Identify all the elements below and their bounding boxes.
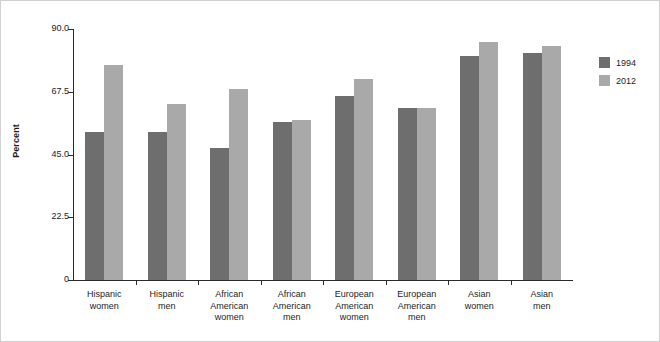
bar bbox=[542, 46, 561, 280]
x-axis-label: Asianmen bbox=[511, 289, 574, 312]
x-axis-label-line: European bbox=[386, 289, 449, 301]
x-axis-label-line: American bbox=[323, 301, 386, 313]
bar bbox=[210, 148, 229, 280]
bar bbox=[167, 104, 186, 280]
x-axis-label: AfricanAmericanwomen bbox=[198, 289, 261, 324]
x-axis-label: EuropeanAmericanmen bbox=[386, 289, 449, 324]
x-axis-label: Asianwomen bbox=[448, 289, 511, 312]
y-axis-tick-label: 45.0 bbox=[51, 149, 69, 159]
x-axis-tick-mark bbox=[448, 280, 449, 285]
legend-item[interactable]: 1994 bbox=[599, 57, 636, 68]
bar bbox=[85, 132, 104, 280]
x-axis-label-line: women bbox=[198, 312, 261, 324]
x-axis-tick-mark bbox=[198, 280, 199, 285]
bar bbox=[273, 122, 292, 280]
y-axis-title: Percent bbox=[5, 1, 27, 280]
x-axis-label-line: men bbox=[261, 312, 324, 324]
y-axis-title-text: Percent bbox=[11, 124, 21, 158]
x-axis-label-line: American bbox=[386, 301, 449, 313]
chart-legend: 19942012 bbox=[599, 57, 636, 93]
y-axis-tick-label: 0 bbox=[64, 274, 69, 284]
bar bbox=[335, 96, 354, 280]
bar bbox=[460, 56, 479, 281]
x-axis-tick-mark bbox=[261, 280, 262, 285]
y-axis-tick-label: 22.5 bbox=[51, 211, 69, 221]
x-axis-label-line: men bbox=[136, 301, 199, 313]
chart-figure: Percent 022.545.067.590.0 HispanicwomenH… bbox=[0, 0, 660, 342]
x-axis-label-line: Hispanic bbox=[136, 289, 199, 301]
x-axis-label-line: American bbox=[261, 301, 324, 313]
bar bbox=[354, 79, 373, 280]
x-axis-label-line: Hispanic bbox=[73, 289, 136, 301]
x-axis-label-line: women bbox=[323, 312, 386, 324]
x-axis-labels: HispanicwomenHispanicmenAfricanAmericanw… bbox=[73, 289, 573, 337]
bars-layer bbox=[73, 29, 573, 280]
x-axis-label-line: men bbox=[386, 312, 449, 324]
bar bbox=[523, 53, 542, 280]
legend-item[interactable]: 2012 bbox=[599, 75, 636, 86]
legend-swatch bbox=[599, 57, 610, 68]
x-axis-label-line: African bbox=[198, 289, 261, 301]
x-axis-label: Hispanicwomen bbox=[73, 289, 136, 312]
x-axis-label-line: American bbox=[198, 301, 261, 313]
bar bbox=[398, 108, 417, 280]
x-axis-label-line: women bbox=[448, 301, 511, 313]
legend-label: 2012 bbox=[616, 76, 636, 86]
bar bbox=[104, 65, 123, 280]
x-axis-tick-mark bbox=[386, 280, 387, 285]
x-axis-label-line: women bbox=[73, 301, 136, 313]
x-axis-label-line: African bbox=[261, 289, 324, 301]
bar bbox=[479, 42, 498, 280]
bar bbox=[417, 108, 436, 280]
x-axis-label-line: Asian bbox=[448, 289, 511, 301]
x-axis-tick-mark bbox=[511, 280, 512, 285]
x-axis-tick-mark bbox=[323, 280, 324, 285]
x-axis-label-line: men bbox=[511, 301, 574, 313]
bar bbox=[229, 89, 248, 280]
x-axis-tick-mark bbox=[136, 280, 137, 285]
plot-area: 022.545.067.590.0 bbox=[73, 29, 573, 280]
x-axis-label: EuropeanAmericanwomen bbox=[323, 289, 386, 324]
y-axis-tick-label: 90.0 bbox=[51, 23, 69, 33]
x-axis-label: Hispanicmen bbox=[136, 289, 199, 312]
x-axis-label: AfricanAmericanmen bbox=[261, 289, 324, 324]
x-axis-label-line: European bbox=[323, 289, 386, 301]
bar bbox=[148, 132, 167, 280]
y-axis-tick-label: 67.5 bbox=[51, 86, 69, 96]
bar bbox=[292, 120, 311, 280]
legend-label: 1994 bbox=[616, 58, 636, 68]
x-axis-label-line: Asian bbox=[511, 289, 574, 301]
legend-swatch bbox=[599, 75, 610, 86]
